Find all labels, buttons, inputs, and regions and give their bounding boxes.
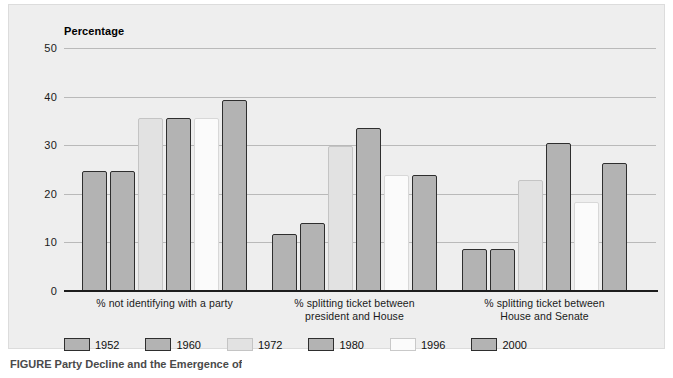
bar [300,223,325,291]
x-axis-line [64,290,658,292]
legend-label: 1972 [258,339,282,351]
bar [546,143,571,291]
x-group-label-line: % not identifying with a party [55,297,275,310]
chart-panel: Percentage 01020304050 % not identifying… [8,4,665,349]
bar-group [82,48,247,291]
legend-swatch [145,338,171,351]
legend-item: 2000 [471,338,526,351]
legend-swatch [390,338,416,351]
x-group-label-line: House and Senate [435,310,655,323]
x-group-label: % splitting ticket betweenHouse and Sena… [435,297,655,323]
x-group-label-line: % splitting ticket between [245,297,465,310]
bar [462,249,487,291]
y-tick-label: 40 [31,91,57,103]
y-tick-label: 50 [31,42,57,54]
legend-item: 1960 [145,338,200,351]
figure-screenshot: Percentage 01020304050 % not identifying… [0,0,673,378]
legend-swatch [471,338,497,351]
bar [272,234,297,291]
legend-item: 1952 [64,338,119,351]
x-group-label: % splitting ticket betweenpresident and … [245,297,465,323]
plot-area [64,48,656,291]
y-tick-label: 0 [31,285,57,297]
figure-caption: FIGURE Party Decline and the Emergence o… [10,358,242,370]
bar [356,128,381,291]
legend: 195219601972198019962000 [64,338,527,351]
bar [602,163,627,291]
bar [222,100,247,291]
y-tick-label: 10 [31,236,57,248]
x-group-label-line: % splitting ticket between [435,297,655,310]
x-group-label-line: president and House [245,310,465,323]
bar [518,180,543,291]
bar [574,202,599,291]
y-tick-label: 20 [31,188,57,200]
legend-item: 1996 [390,338,445,351]
legend-swatch [64,338,90,351]
bar-group [462,48,627,291]
bar-group [272,48,437,291]
y-axis-title: Percentage [64,25,124,37]
bar [490,249,515,291]
legend-swatch [308,338,334,351]
y-tick-label: 30 [31,139,57,151]
y-axis-tick-labels: 01020304050 [31,48,57,291]
bar [138,118,163,292]
bar [412,175,437,291]
legend-label: 1960 [176,339,200,351]
legend-item: 1980 [308,338,363,351]
legend-label: 1952 [95,339,119,351]
legend-item: 1972 [227,338,282,351]
legend-label: 1980 [339,339,363,351]
legend-swatch [227,338,253,351]
legend-label: 2000 [502,339,526,351]
bar [384,175,409,291]
bar [328,146,353,291]
bar [194,118,219,292]
legend-label: 1996 [421,339,445,351]
bar [166,118,191,292]
x-group-label: % not identifying with a party [55,297,275,310]
bar [82,171,107,291]
bar [110,171,135,291]
